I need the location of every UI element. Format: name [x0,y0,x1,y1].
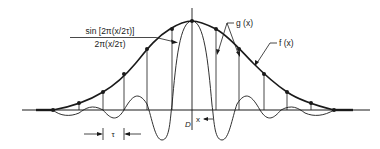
g-arrowhead-2 [236,51,240,57]
x-direction-arrowhead [203,117,208,121]
g-arrowhead-1 [216,49,220,55]
tau-left-arrowhead [97,132,103,136]
g-label: g (x) [236,18,253,28]
sinc-label-numerator: sin [2π(x/2τ)] [86,26,135,36]
x-axis-label: x [196,115,200,124]
sinc-arrowhead [171,40,178,45]
sampling-diagram: sin [2π(x/2τ)] 2π(x/2τ) g (x) f (x) D x … [0,0,380,149]
origin-label: D [185,120,191,129]
f-leader [257,43,277,63]
sinc-leader [146,38,175,43]
g-leader-1 [218,23,234,52]
sinc-label-denominator: 2π(x/2τ) [95,39,126,49]
tau-label: τ [111,130,115,139]
f-label: f (x) [279,38,294,48]
